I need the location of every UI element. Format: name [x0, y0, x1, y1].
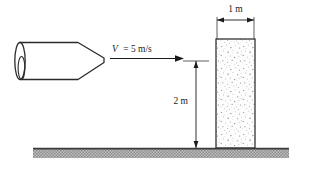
arrowhead-up-icon — [194, 61, 199, 68]
arrowhead-left-icon — [217, 18, 224, 23]
nozzle — [15, 43, 104, 80]
arrowhead-down-icon — [194, 141, 199, 148]
jet-height-dimension: 2 m — [173, 61, 209, 148]
technical-diagram: 1 m 2 m — [0, 0, 310, 176]
velocity-value: = 5 m/s — [123, 44, 152, 54]
water-jet: V = 5 m/s — [110, 44, 184, 62]
ground-hatch-band — [33, 149, 289, 158]
jet-arrowhead-icon — [175, 55, 184, 61]
wall-width-label: 1 m — [228, 4, 243, 14]
wall-body — [216, 39, 255, 148]
figure-canvas: 1 m 2 m — [0, 0, 310, 176]
nozzle-body-outline — [20, 43, 104, 80]
ground — [33, 149, 289, 158]
arrowhead-right-icon — [247, 18, 254, 23]
wall-width-dimension: 1 m — [217, 4, 254, 39]
velocity-symbol: V — [112, 44, 119, 54]
wall — [216, 39, 255, 148]
velocity-label: V = 5 m/s — [112, 44, 152, 54]
jet-height-label: 2 m — [173, 96, 188, 106]
